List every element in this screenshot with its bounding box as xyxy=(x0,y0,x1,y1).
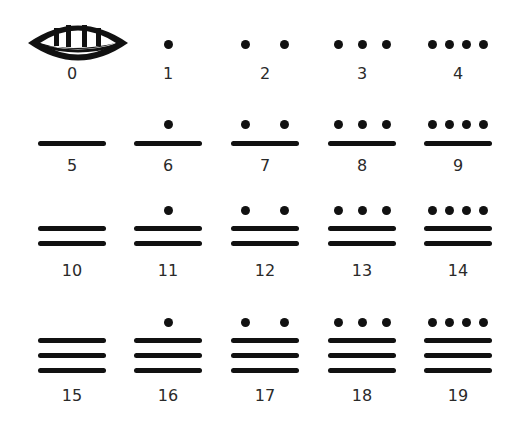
dot-mark xyxy=(358,318,367,327)
numeral-label: 8 xyxy=(314,157,410,175)
dot-mark xyxy=(445,318,454,327)
dot-mark xyxy=(428,318,437,327)
dot-mark xyxy=(358,120,367,129)
dot-mark xyxy=(479,318,488,327)
dot-mark xyxy=(164,120,173,129)
numeral-label: 5 xyxy=(24,157,120,175)
numeral-label: 6 xyxy=(120,157,216,175)
dot-mark xyxy=(462,120,471,129)
dot-mark xyxy=(358,206,367,215)
dot-mark xyxy=(164,206,173,215)
bar-mark xyxy=(134,368,202,373)
bar-mark xyxy=(231,241,299,246)
numeral-label: 7 xyxy=(217,157,313,175)
maya-numerals-grid: 012345678910111213141516171819 xyxy=(0,0,517,430)
bar-mark xyxy=(328,338,396,343)
numeral-label: 15 xyxy=(24,387,120,405)
bar-mark xyxy=(134,353,202,358)
bar-mark xyxy=(134,241,202,246)
dot-mark xyxy=(445,206,454,215)
bar-mark xyxy=(38,241,106,246)
dot-mark xyxy=(462,318,471,327)
numeral-label: 17 xyxy=(217,387,313,405)
bar-mark xyxy=(38,226,106,231)
dot-mark xyxy=(445,120,454,129)
numeral-label: 19 xyxy=(410,387,506,405)
bar-mark xyxy=(231,338,299,343)
dot-mark xyxy=(445,40,454,49)
dot-mark xyxy=(334,318,343,327)
dot-mark xyxy=(241,40,250,49)
shell-zero-icon xyxy=(26,22,130,66)
numeral-label: 18 xyxy=(314,387,410,405)
numeral-label: 14 xyxy=(410,262,506,280)
dot-mark xyxy=(428,206,437,215)
numeral-label: 13 xyxy=(314,262,410,280)
dot-mark xyxy=(382,206,391,215)
dot-mark xyxy=(462,206,471,215)
dot-mark xyxy=(280,120,289,129)
numeral-label: 0 xyxy=(24,65,120,83)
bar-mark xyxy=(38,338,106,343)
bar-mark xyxy=(231,368,299,373)
bar-mark xyxy=(328,141,396,146)
dot-mark xyxy=(241,206,250,215)
dot-mark xyxy=(241,318,250,327)
dot-mark xyxy=(479,40,488,49)
bar-mark xyxy=(231,353,299,358)
bar-mark xyxy=(424,368,492,373)
dot-mark xyxy=(164,40,173,49)
dot-mark xyxy=(382,120,391,129)
numeral-label: 2 xyxy=(217,65,313,83)
numeral-label: 10 xyxy=(24,262,120,280)
dot-mark xyxy=(280,40,289,49)
numeral-label: 1 xyxy=(120,65,216,83)
bar-mark xyxy=(424,141,492,146)
bar-mark xyxy=(424,226,492,231)
dot-mark xyxy=(428,120,437,129)
numeral-label: 9 xyxy=(410,157,506,175)
bar-mark xyxy=(38,141,106,146)
numeral-label: 16 xyxy=(120,387,216,405)
bar-mark xyxy=(328,241,396,246)
bar-mark xyxy=(328,353,396,358)
bar-mark xyxy=(328,226,396,231)
bar-mark xyxy=(424,353,492,358)
bar-mark xyxy=(38,353,106,358)
dot-mark xyxy=(334,120,343,129)
dot-mark xyxy=(164,318,173,327)
dot-mark xyxy=(479,120,488,129)
numeral-label: 3 xyxy=(314,65,410,83)
dot-mark xyxy=(382,318,391,327)
numeral-label: 4 xyxy=(410,65,506,83)
bar-mark xyxy=(231,141,299,146)
dot-mark xyxy=(280,206,289,215)
bar-mark xyxy=(134,226,202,231)
dot-mark xyxy=(382,40,391,49)
bar-mark xyxy=(134,141,202,146)
dot-mark xyxy=(358,40,367,49)
bar-mark xyxy=(38,368,106,373)
numeral-label: 12 xyxy=(217,262,313,280)
bar-mark xyxy=(328,368,396,373)
dot-mark xyxy=(334,206,343,215)
dot-mark xyxy=(280,318,289,327)
numeral-label: 11 xyxy=(120,262,216,280)
bar-mark xyxy=(134,338,202,343)
dot-mark xyxy=(428,40,437,49)
dot-mark xyxy=(479,206,488,215)
bar-mark xyxy=(424,338,492,343)
dot-mark xyxy=(241,120,250,129)
dot-mark xyxy=(334,40,343,49)
bar-mark xyxy=(231,226,299,231)
bar-mark xyxy=(424,241,492,246)
dot-mark xyxy=(462,40,471,49)
